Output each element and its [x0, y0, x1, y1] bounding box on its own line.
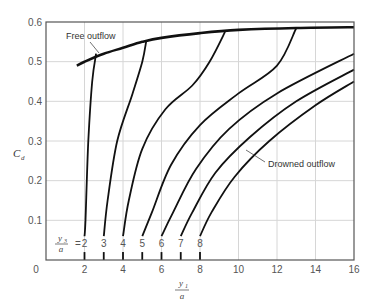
y-axis-label: C d	[13, 147, 25, 162]
curve-y3-a-2	[85, 54, 97, 237]
y-tick-label: 0.6	[28, 17, 42, 28]
y-tick-label: 0.1	[28, 215, 42, 226]
parameter-value-label: 8	[197, 238, 203, 249]
x-axis-ticks: 246810121416	[82, 264, 360, 275]
parameter-value-label: 7	[178, 238, 184, 249]
x-tick-label: 8	[197, 264, 203, 275]
svg-text:1: 1	[185, 283, 188, 289]
free-outflow-leader	[90, 42, 99, 53]
x-tick-label: 16	[348, 264, 360, 275]
curve-y3-a-5	[142, 28, 296, 236]
origin-label: 0	[33, 264, 39, 275]
svg-text:C: C	[13, 147, 21, 159]
x-tick-label: 10	[233, 264, 245, 275]
discharge-coefficient-chart: 246810121416 0.10.20.30.40.50.6 2345678 …	[0, 0, 372, 306]
x-tick-label: 14	[310, 264, 322, 275]
y-tick-label: 0.4	[28, 96, 42, 107]
x-tick-label: 12	[271, 264, 283, 275]
y-tick-label: 0.5	[28, 56, 42, 67]
curve-y3-a-3	[104, 42, 146, 236]
parameter-value-label: 5	[139, 238, 145, 249]
svg-text:=: =	[75, 238, 81, 249]
parameter-value-label: 3	[101, 238, 107, 249]
drowned-outflow-label: Drowned outflow	[268, 159, 336, 169]
free-outflow-label: Free outflow	[66, 31, 116, 41]
x-tick-label: 4	[120, 264, 126, 275]
svg-text:d: d	[21, 154, 25, 162]
svg-text:a: a	[180, 291, 185, 301]
svg-text:y: y	[57, 233, 62, 243]
x-axis-label: y 1 a	[175, 278, 189, 301]
y-tick-label: 0.2	[28, 175, 42, 186]
x-tick-label: 2	[82, 264, 88, 275]
parameter-fraction-label: y 3 a =	[55, 233, 81, 254]
svg-text:3: 3	[63, 238, 67, 244]
curve-y3-a-4	[123, 32, 225, 236]
parameter-value-label: 6	[159, 238, 165, 249]
parameter-labels: 2345678	[82, 238, 204, 249]
curve-free-outflow	[77, 27, 354, 65]
parameter-value-label: 4	[120, 238, 126, 249]
y-axis-ticks: 0.10.20.30.40.50.6	[28, 17, 42, 226]
x-tick-label: 6	[159, 264, 165, 275]
svg-text:y: y	[178, 278, 183, 288]
y-tick-label: 0.3	[28, 136, 42, 147]
svg-text:a: a	[59, 244, 64, 254]
parameter-value-label: 2	[82, 238, 88, 249]
